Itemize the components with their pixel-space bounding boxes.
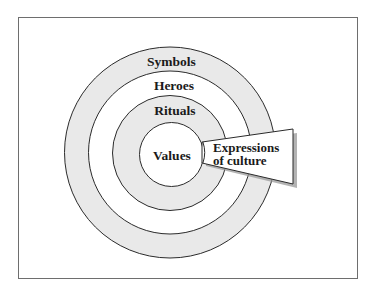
callout-text-line2: of culture — [213, 153, 267, 168]
label-symbols: Symbols — [147, 54, 196, 69]
label-heroes: Heroes — [154, 78, 194, 93]
label-values: Values — [153, 148, 191, 163]
label-rituals: Rituals — [154, 103, 195, 118]
onion-diagram: Symbols Heroes Rituals Values Expression… — [0, 0, 378, 291]
diagram-canvas: Symbols Heroes Rituals Values Expression… — [0, 0, 378, 291]
